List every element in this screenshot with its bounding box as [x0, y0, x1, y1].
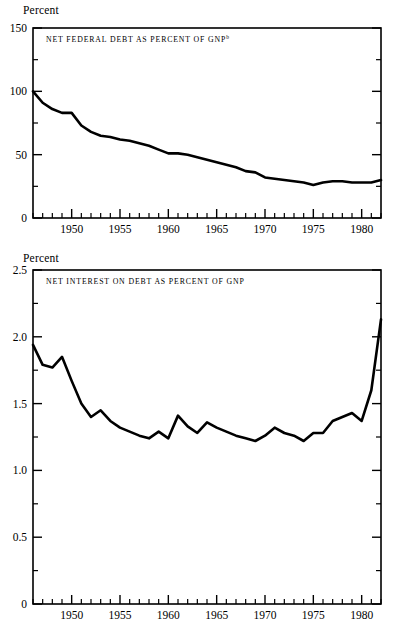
y-tick-label: 0.5 [13, 531, 28, 543]
panel-title-superscript: b [226, 34, 230, 40]
y-tick-label: 2.0 [13, 331, 28, 343]
figure-two-panel-chart: Percent 05010015019501955196019651970197… [0, 0, 404, 634]
chart-svg-net-federal-debt: 0501001501950195519601965197019751980NET… [0, 0, 404, 248]
y-axis-unit-label-top: Percent [23, 4, 59, 16]
x-tick-label: 1960 [157, 609, 180, 621]
x-tick-label: 1970 [254, 609, 277, 621]
data-series-line [33, 319, 381, 441]
x-tick-label: 1950 [60, 223, 83, 235]
y-tick-label: 0 [21, 212, 27, 224]
data-series-line [33, 91, 381, 185]
panel-net-interest-on-debt: Percent 00.51.01.52.02.51950195519601965… [0, 248, 404, 634]
x-tick-label: 1980 [350, 609, 373, 621]
x-tick-label: 1965 [205, 609, 228, 621]
y-tick-label: 1.0 [13, 464, 28, 476]
panel-title: NET FEDERAL DEBT AS PERCENT OF GNPb [46, 34, 230, 44]
plot-frame [33, 270, 381, 604]
chart-svg-net-interest-on-debt: 00.51.01.52.02.5195019551960196519701975… [0, 248, 404, 634]
x-tick-label: 1950 [60, 609, 83, 621]
y-tick-label: 100 [10, 85, 28, 97]
x-tick-label: 1970 [254, 223, 277, 235]
x-tick-label: 1975 [302, 609, 325, 621]
y-tick-label: 50 [16, 149, 28, 161]
y-tick-label: 150 [10, 22, 28, 34]
y-tick-label: 1.5 [13, 398, 28, 410]
panel-title: NET INTEREST ON DEBT AS PERCENT OF GNP [46, 277, 245, 286]
x-tick-label: 1955 [109, 223, 132, 235]
x-tick-label: 1965 [205, 223, 228, 235]
plot-frame [33, 28, 381, 218]
x-tick-label: 1975 [302, 223, 325, 235]
x-tick-label: 1955 [109, 609, 132, 621]
panel-net-federal-debt: Percent 05010015019501955196019651970197… [0, 0, 404, 248]
x-tick-label: 1960 [157, 223, 180, 235]
y-tick-label: 0 [21, 598, 27, 610]
y-tick-label: 2.5 [13, 264, 28, 276]
y-axis-unit-label-bottom: Percent [23, 252, 59, 264]
x-tick-label: 1980 [350, 223, 373, 235]
